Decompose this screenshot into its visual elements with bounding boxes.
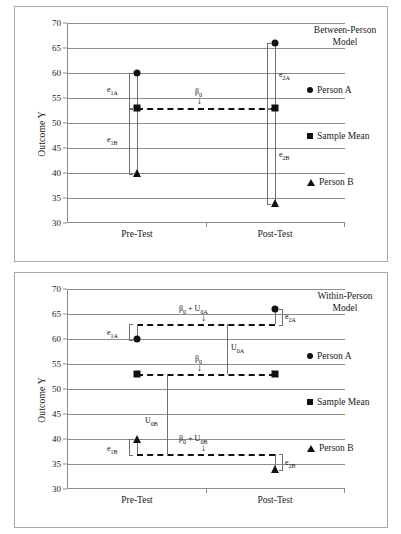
brace-e1A [129, 324, 133, 341]
chart-panel-between-person: Outcome Y 70 65 60 55 50 45 40 35 30 [14, 6, 388, 262]
y-tick-mark-35 [63, 198, 67, 199]
point-sample-mean-pre [134, 105, 141, 112]
gridline-65 [67, 48, 345, 49]
point-sample-mean-post [272, 371, 279, 378]
legend-label-person-b: Person B [319, 177, 354, 187]
gridline-35 [67, 198, 345, 199]
point-person-b-post [271, 199, 279, 207]
legend-label-sample-mean: Sample Mean [317, 397, 370, 407]
x-tick-right [344, 489, 345, 493]
brace-e2B [279, 454, 283, 471]
x-label-pre-test: Pre-Test [121, 495, 153, 505]
y-tick-mark-60 [63, 73, 67, 74]
gridline-45 [67, 414, 345, 415]
x-tick-right [344, 223, 345, 227]
y-tick-45: 45 [35, 410, 61, 419]
x-tick-mid [206, 223, 207, 227]
y-tick-65: 65 [35, 44, 61, 53]
brace-e2A [267, 43, 271, 110]
y-tick-mark-55 [63, 364, 67, 365]
legend-label-sample-mean: Sample Mean [317, 131, 370, 141]
y-tick-mark-35 [63, 464, 67, 465]
legend-item-sample-mean: Sample Mean [307, 131, 370, 141]
gridline-40 [67, 173, 345, 174]
y-tick-mark-40 [63, 173, 67, 174]
person-b-mean-reference-line [137, 454, 275, 456]
x-label-post-test: Post-Test [257, 495, 292, 505]
chart-panel-within-person: Outcome Y 70 65 60 55 50 45 40 35 30 [14, 272, 388, 528]
y-tick-mark-40 [63, 439, 67, 440]
y-tick-70: 70 [35, 19, 61, 28]
y-tick-70: 70 [35, 285, 61, 294]
brace-e1A [129, 73, 133, 110]
gridline-50 [67, 123, 345, 124]
point-sample-mean-pre [134, 371, 141, 378]
plot-area: U0A U0B e1A e1B e2A e2B β0 + U0A ↓ [67, 289, 345, 489]
y-tick-35: 35 [35, 194, 61, 203]
square-marker-icon [307, 399, 313, 405]
point-person-b-pre [133, 169, 141, 177]
figure-root: Outcome Y 70 65 60 55 50 45 40 35 30 [0, 0, 401, 534]
person-a-intercept-arrow-icon: ↓ [201, 313, 206, 323]
legend-title: Between-Person Model [314, 25, 376, 49]
legend-item-person-a: Person A [307, 85, 352, 95]
label-e2A: e2A [279, 71, 290, 81]
label-U0A: U0A [231, 344, 244, 354]
y-tick-30: 30 [35, 485, 61, 494]
label-e1B: e1B [107, 136, 118, 146]
point-person-a-post [272, 306, 279, 313]
y-tick-30: 30 [35, 219, 61, 228]
y-tick-45: 45 [35, 144, 61, 153]
connector-U0A [227, 324, 228, 374]
legend-item-person-a: Person A [307, 351, 352, 361]
brace-e1B [129, 439, 133, 456]
legend-title-line2: Model [317, 303, 372, 315]
y-axis-tick-labels: 70 65 60 55 50 45 40 35 30 [35, 273, 61, 527]
legend-title: Within-Person Model [317, 291, 372, 315]
x-label-post-test: Post-Test [257, 229, 292, 239]
point-person-a-pre [134, 336, 141, 343]
y-tick-mark-30 [63, 489, 67, 490]
label-e1A: e1A [107, 86, 118, 96]
gridline-45 [67, 148, 345, 149]
y-tick-mark-65 [63, 48, 67, 49]
point-person-a-post [272, 40, 279, 47]
legend-item-sample-mean: Sample Mean [307, 397, 370, 407]
y-tick-35: 35 [35, 460, 61, 469]
legend-title-line2: Model [314, 37, 376, 49]
y-tick-60: 60 [35, 69, 61, 78]
legend-label-person-a: Person A [317, 351, 352, 361]
gridline-35 [67, 464, 345, 465]
gridline-55 [67, 364, 345, 365]
legend-item-person-b: Person B [307, 443, 354, 453]
gridline-60 [67, 73, 345, 74]
sample-mean-reference-line [137, 108, 275, 110]
person-b-intercept-arrow-icon: ↓ [201, 443, 206, 453]
y-tick-mark-65 [63, 314, 67, 315]
sample-mean-reference-line [137, 374, 275, 376]
legend-label-person-b: Person B [319, 443, 354, 453]
gridline-70 [67, 23, 345, 24]
y-tick-mark-60 [63, 339, 67, 340]
legend-title-line1: Within-Person [317, 291, 372, 303]
square-marker-icon [307, 133, 313, 139]
y-tick-50: 50 [35, 385, 61, 394]
y-tick-mark-55 [63, 98, 67, 99]
y-tick-55: 55 [35, 94, 61, 103]
label-e2B: e2B [279, 151, 290, 161]
connector-post-test [275, 43, 276, 203]
triangle-marker-icon [307, 445, 315, 452]
legend-item-person-b: Person B [307, 177, 354, 187]
y-tick-mark-30 [63, 223, 67, 224]
x-label-pre-test: Pre-Test [121, 229, 153, 239]
label-e1A: e1A [107, 329, 118, 339]
triangle-marker-icon [307, 179, 315, 186]
point-person-b-post [271, 465, 279, 473]
beta0-arrow-icon: ↓ [197, 96, 202, 106]
brace-e2A [279, 309, 283, 326]
point-sample-mean-post [272, 105, 279, 112]
beta0-arrow-icon: ↓ [197, 363, 202, 373]
y-tick-mark-70 [63, 289, 67, 290]
y-tick-60: 60 [35, 335, 61, 344]
y-tick-mark-45 [63, 414, 67, 415]
